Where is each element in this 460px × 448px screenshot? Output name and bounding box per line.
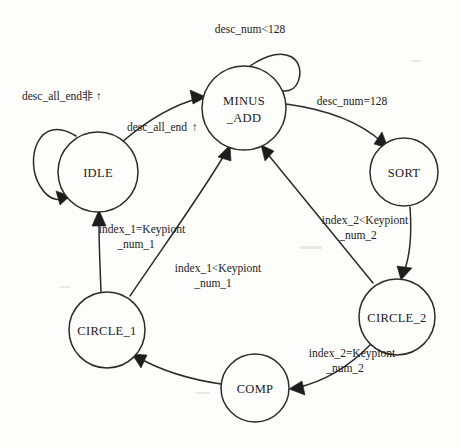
edge-label-idle-self-arrow: ↑ (96, 90, 102, 102)
edge-comp-to-circle-1 (132, 354, 221, 384)
state-node-idle[interactable]: IDLE (58, 132, 138, 212)
state-node-circle-1[interactable]: CIRCLE_1 (69, 292, 145, 368)
edge-label-minus-add-self: desc_num<128 (215, 23, 286, 35)
state-node-minus-add[interactable]: MINUS _ADD (202, 66, 286, 150)
edge-idle-to-minus-add (122, 90, 206, 142)
edge-label-idle-self-text: desc_all_end (22, 90, 82, 102)
state-label-minus-add-line1: MINUS (223, 94, 265, 108)
state-label-comp: COMP (237, 382, 274, 396)
state-label-minus-add-line2: _ADD (226, 111, 262, 125)
state-circle-minus-add[interactable] (202, 66, 286, 150)
edge-comp-to-circle-1-path (139, 358, 221, 384)
edge-label-circle-2-to-comp-line1: index_2=Keypiont (309, 347, 396, 360)
state-label-circle-2: CIRCLE_2 (367, 311, 426, 325)
fsm-diagram: IDLE MINUS _ADD SORT CIRCLE_2 COMP CIRCL… (0, 0, 460, 448)
edge-label-idle-to-minus-add-arrow: ↑ (192, 121, 198, 133)
edge-label-circle-1-to-idle: index_1=Keypiont _num_1 (99, 223, 186, 250)
fsm-canvas: IDLE MINUS _ADD SORT CIRCLE_2 COMP CIRCL… (0, 0, 460, 448)
edge-idle-to-minus-add-path (122, 98, 200, 142)
state-label-sort: SORT (388, 166, 420, 180)
edge-label-circle-1-to-minus-add: index_1<Keypiont _num_1 (175, 262, 262, 289)
edge-label-idle-to-minus-add: desc_all_end↑ (127, 121, 198, 133)
edge-label-circle-2-to-minus-add-line1: index_2<Keypiont (322, 214, 409, 227)
edge-sort-to-circle-2-arrowhead (397, 266, 412, 280)
state-label-circle-1: CIRCLE_1 (77, 324, 136, 338)
edge-label-circle-1-to-idle-line2: _num_1 (116, 238, 155, 250)
edge-label-circle-2-to-comp-line2: _num_2 (325, 362, 364, 374)
svg-text:desc_all_end非↑: desc_all_end非↑ (22, 90, 102, 103)
edge-label-idle-self: desc_all_end非↑ (22, 90, 102, 103)
edge-label-circle-1-to-minus-add-line1: index_1<Keypiont (175, 262, 262, 275)
edge-label-circle-2-to-minus-add-line2: _num_2 (338, 229, 377, 241)
edge-label-circle-1-to-idle-line1: index_1=Keypiont (99, 223, 186, 236)
state-node-comp[interactable]: COMP (221, 354, 289, 422)
state-label-idle: IDLE (83, 166, 113, 180)
edge-label-circle-1-to-minus-add-line2: _num_1 (193, 277, 232, 289)
edge-minus-add-to-sort-path (286, 104, 382, 142)
edge-minus-add-to-sort (286, 104, 388, 148)
state-node-circle-2[interactable]: CIRCLE_2 (359, 279, 435, 355)
edge-label-minus-add-to-sort: desc_num=128 (317, 95, 388, 107)
edge-label-idle-to-minus-add-text: desc_all_end (127, 121, 187, 133)
edge-circle-2-to-comp-arrowhead (289, 381, 305, 395)
state-node-sort[interactable]: SORT (370, 138, 438, 206)
edge-label-idle-self-cjk: 非 (82, 90, 93, 103)
svg-text:desc_all_end↑: desc_all_end↑ (127, 121, 198, 133)
